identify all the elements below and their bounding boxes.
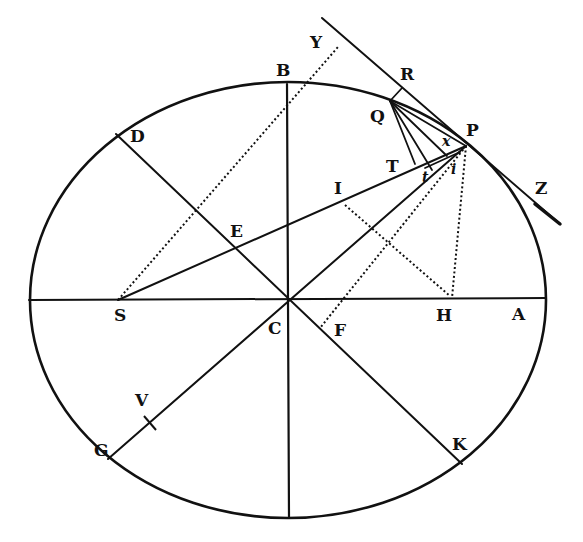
- label-t-upper: T: [386, 158, 399, 175]
- label-i: I: [334, 180, 342, 197]
- label-t-lower: t: [422, 170, 428, 184]
- line-qt: [390, 101, 415, 164]
- dotted-ih: [345, 205, 450, 296]
- label-d: D: [130, 128, 145, 145]
- label-y: Y: [310, 34, 322, 51]
- line-qr: [390, 88, 402, 101]
- label-k: K: [452, 436, 467, 453]
- label-h: H: [436, 307, 452, 324]
- label-z: Z: [535, 180, 547, 197]
- label-q: Q: [370, 108, 385, 125]
- label-a: A: [512, 306, 525, 323]
- label-i-lower: i: [451, 162, 456, 176]
- line-sp: [118, 146, 466, 300]
- label-p: P: [466, 122, 479, 139]
- line-qp: [390, 101, 466, 146]
- label-e: E: [230, 223, 243, 240]
- label-v: V: [135, 392, 148, 409]
- label-b: B: [276, 62, 290, 79]
- label-r: R: [400, 66, 414, 83]
- dotted-sy: [118, 47, 338, 300]
- tangent-end: [535, 204, 560, 224]
- ellipse-diagram: [0, 0, 583, 542]
- label-f: F: [334, 322, 346, 339]
- label-c: C: [268, 320, 282, 337]
- label-g: G: [94, 442, 109, 459]
- label-x: x: [442, 134, 450, 148]
- label-s: S: [114, 307, 126, 324]
